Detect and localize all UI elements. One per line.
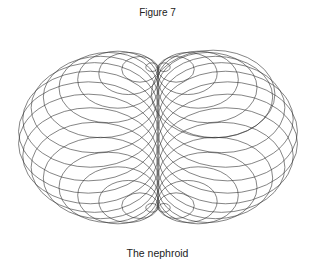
envelope-circle: [59, 152, 158, 222]
envelope-circle: [158, 180, 217, 222]
envelope-circle: [19, 82, 158, 181]
envelope-circle: [99, 180, 158, 222]
envelope-circle: [59, 52, 158, 122]
envelope-circles: [19, 50, 298, 224]
envelope-circle: [158, 53, 217, 95]
envelope-circle: [158, 152, 257, 222]
nephroid-diagram: [0, 0, 315, 266]
envelope-circle: [158, 51, 238, 108]
envelope-circle: [99, 53, 158, 95]
envelope-circle: [19, 94, 158, 193]
figure-caption: The nephroid: [0, 247, 315, 259]
envelope-circle: [158, 167, 238, 224]
envelope-circle: [158, 82, 297, 181]
envelope-circle: [78, 51, 158, 108]
envelope-circle: [158, 94, 297, 193]
envelope-circle: [158, 52, 257, 122]
envelope-circle: [78, 167, 158, 224]
